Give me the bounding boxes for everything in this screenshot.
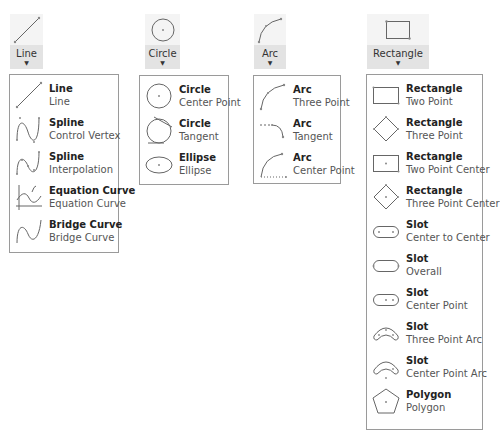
- menu-item-slot-center-point[interactable]: SlotCenter Point: [367, 282, 482, 316]
- menu-item-title: Arc: [293, 83, 350, 96]
- rectangle-two-point-center-icon: [370, 147, 402, 179]
- menu-item-subtitle: Center Point: [293, 164, 355, 177]
- polygon-icon: [370, 385, 402, 417]
- menu-item-spline-control-vertex[interactable]: SplineControl Vertex: [10, 112, 118, 146]
- circle-dropdown-menu: CircleCenter Point CircleTangent Ellipse…: [139, 75, 229, 185]
- menu-item-slot-overall[interactable]: SlotOverall: [367, 248, 482, 282]
- slot-three-point-arc-icon: [370, 317, 402, 349]
- line-dropdown-menu: LineLine SplineControl Vertex SplineInte…: [9, 74, 119, 253]
- menu-item-arc-three-point[interactable]: ArcThree Point: [254, 79, 340, 113]
- menu-item-rectangle-two-point-center[interactable]: RectangleTwo Point Center: [367, 146, 482, 180]
- menu-item-subtitle: Tangent: [293, 130, 333, 143]
- menu-item-subtitle: Ellipse: [179, 164, 216, 177]
- menu-item-rectangle-three-point[interactable]: RectangleThree Point: [367, 112, 482, 146]
- menu-item-subtitle: Center Point: [179, 96, 241, 109]
- chevron-down-icon: ▼: [367, 59, 429, 67]
- menu-item-arc-tangent[interactable]: ArcTangent: [254, 113, 340, 147]
- menu-item-subtitle: Interpolation: [49, 163, 113, 176]
- menu-item-title: Bridge Curve: [49, 218, 122, 231]
- arc-label: Arc: [262, 48, 278, 59]
- menu-item-subtitle: Center Point: [406, 299, 468, 312]
- rectangle-button[interactable]: Rectangle ▼: [367, 14, 429, 69]
- menu-item-slot-center-point-arc[interactable]: SlotCenter Point Arc: [367, 350, 482, 384]
- menu-item-subtitle: Control Vertex: [49, 129, 120, 142]
- menu-item-polygon[interactable]: PolygonPolygon: [367, 384, 482, 418]
- arc-center-point-icon: [257, 148, 289, 180]
- menu-item-rectangle-three-point-center[interactable]: RectangleThree Point Center: [367, 180, 482, 214]
- menu-item-subtitle: Equation Curve: [49, 197, 135, 210]
- arc-button[interactable]: Arc ▼: [254, 14, 286, 69]
- menu-item-title: Ellipse: [179, 151, 216, 164]
- arc-tangent-icon: [257, 114, 289, 146]
- rectangle-three-point-icon: [370, 113, 402, 145]
- menu-item-ellipse[interactable]: EllipseEllipse: [140, 147, 228, 181]
- menu-item-equation-curve[interactable]: Equation CurveEquation Curve: [10, 180, 118, 214]
- circle-button-label: Circle ▼: [145, 45, 180, 69]
- slot-center-to-center-icon: [370, 215, 402, 247]
- menu-item-title: Slot: [406, 354, 487, 367]
- arc-button-label: Arc ▼: [254, 45, 286, 69]
- menu-item-title: Rectangle: [406, 184, 500, 197]
- line-label: Line: [16, 48, 37, 59]
- rectangle-icon: [367, 14, 429, 45]
- rectangle-three-point-center-icon: [370, 181, 402, 213]
- line-button-label: Line ▼: [10, 45, 43, 69]
- rectangle-button-label: Rectangle ▼: [367, 45, 429, 69]
- circle-icon: [145, 14, 180, 45]
- circle-tangent-icon: [143, 114, 175, 146]
- menu-item-title: Circle: [179, 83, 241, 96]
- menu-item-title: Slot: [406, 320, 482, 333]
- menu-item-bridge-curve[interactable]: Bridge CurveBridge Curve: [10, 214, 118, 248]
- menu-item-subtitle: Three Point Center: [406, 197, 500, 210]
- chevron-down-icon: ▼: [10, 59, 43, 67]
- rectangle-label: Rectangle: [373, 48, 423, 59]
- menu-item-title: Rectangle: [406, 82, 462, 95]
- arc-icon: [254, 14, 286, 45]
- circle-center-point-icon: [143, 80, 175, 112]
- menu-item-subtitle: Center to Center: [406, 231, 490, 244]
- slot-center-point-arc-icon: [370, 351, 402, 383]
- bridge-curve-icon: [13, 215, 45, 247]
- menu-item-title: Spline: [49, 150, 113, 163]
- menu-item-title: Equation Curve: [49, 184, 135, 197]
- menu-item-title: Rectangle: [406, 150, 490, 163]
- arc-three-point-icon: [257, 80, 289, 112]
- rectangle-two-point-icon: [370, 79, 402, 111]
- arc-dropdown-menu: ArcThree Point ArcTangent ArcCenter Poin…: [253, 75, 341, 184]
- menu-item-circle-center-point[interactable]: CircleCenter Point: [140, 79, 228, 113]
- menu-item-subtitle: Polygon: [406, 401, 451, 414]
- menu-item-subtitle: Center Point Arc: [406, 367, 487, 380]
- menu-item-title: Rectangle: [406, 116, 463, 129]
- spline-interpolation-icon: [13, 147, 45, 179]
- slot-overall-icon: [370, 249, 402, 281]
- menu-item-line[interactable]: LineLine: [10, 78, 118, 112]
- menu-item-subtitle: Two Point Center: [406, 163, 490, 176]
- chevron-down-icon: ▼: [145, 59, 180, 67]
- equation-curve-icon: [13, 181, 45, 213]
- menu-item-title: Line: [49, 82, 73, 95]
- menu-item-title: Arc: [293, 117, 333, 130]
- menu-item-subtitle: Three Point: [293, 96, 350, 109]
- chevron-down-icon: ▼: [254, 59, 286, 67]
- menu-item-circle-tangent[interactable]: CircleTangent: [140, 113, 228, 147]
- menu-item-title: Spline: [49, 116, 120, 129]
- rectangle-dropdown-menu: RectangleTwo Point RectangleThree Point …: [366, 74, 483, 430]
- line-button[interactable]: Line ▼: [10, 14, 43, 69]
- menu-item-slot-three-point-arc[interactable]: SlotThree Point Arc: [367, 316, 482, 350]
- menu-item-subtitle: Three Point: [406, 129, 463, 142]
- menu-item-title: Slot: [406, 218, 490, 231]
- menu-item-slot-center-to-center[interactable]: SlotCenter to Center: [367, 214, 482, 248]
- menu-item-subtitle: Bridge Curve: [49, 231, 122, 244]
- menu-item-subtitle: Line: [49, 95, 73, 108]
- menu-item-subtitle: Tangent: [179, 130, 219, 143]
- line-icon: [10, 14, 43, 45]
- circle-button[interactable]: Circle ▼: [145, 14, 180, 69]
- ellipse-icon: [143, 148, 175, 180]
- menu-item-title: Arc: [293, 151, 355, 164]
- menu-item-arc-center-point[interactable]: ArcCenter Point: [254, 147, 340, 181]
- menu-item-subtitle: Overall: [406, 265, 442, 278]
- menu-item-spline-interpolation[interactable]: SplineInterpolation: [10, 146, 118, 180]
- menu-item-title: Polygon: [406, 388, 451, 401]
- menu-item-title: Slot: [406, 252, 442, 265]
- menu-item-rectangle-two-point[interactable]: RectangleTwo Point: [367, 78, 482, 112]
